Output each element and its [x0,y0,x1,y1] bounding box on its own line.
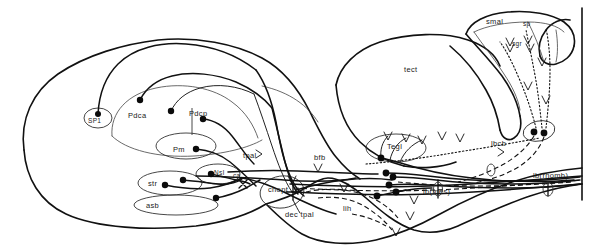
teg-arrowhead-5 [456,134,464,142]
soma-cb2 [541,130,548,137]
soma-pdca [137,97,143,103]
tract-dotted-cb-ascend-3 [546,28,550,128]
label-tect: tect [404,66,418,74]
label-lbcb: lbcb [491,140,506,148]
lbcb-ellipse [487,164,495,176]
label-smal: smal [486,18,503,26]
label-asb: asb [146,202,159,210]
label-str: str [148,180,157,188]
soma-teg4 [393,189,400,196]
tract-pdcp-ascending [171,86,254,111]
soma-str1 [162,182,168,188]
label-pdcp: Pdcp [189,110,208,118]
tract-teg-ascend-3 [400,140,422,162]
label-sgr: sgr [512,41,522,48]
label-sp: sp [523,21,531,28]
tract-lih-2 [318,197,392,230]
lih-arrowhead-3 [410,196,418,204]
soma-cb1 [531,129,538,136]
label-chopt: chopt [268,186,288,194]
label-lih: lih [343,205,352,213]
teg-arrowhead-4 [438,132,446,140]
label-tpal: tpal [243,152,257,160]
cb-arrowhead-2 [524,36,532,44]
nucleus-pm [156,133,216,159]
neuroanatomy-figure: SP1 Pdca Pdcp Pm str Nsl ca asb tpal bfb… [0,0,596,252]
tpal-arrowhead [256,150,262,158]
soma-teg5 [374,193,381,200]
lbcb-arrowhead [498,148,504,156]
label-tegl: Tegl [387,143,402,151]
soma-str2 [180,177,186,183]
label-dec-tpal: dec tpal [285,211,314,219]
label-lb-rhomb: lb(rhomb) [533,172,568,180]
tract-sp1-ascending [98,44,256,114]
label-sp1: SP1 [88,118,101,125]
label-bfb: bfb [314,154,325,162]
soma-teg6 [390,174,397,181]
label-pdca: Pdca [128,112,147,120]
soma-teg2 [386,182,393,189]
cb-arrowhead-4 [524,82,532,90]
soma-pm [193,146,199,152]
tectum-outline [336,35,500,168]
soma-teg3 [383,170,390,177]
cerebellum-outline [450,11,575,139]
soma-pdcp1 [168,108,174,114]
tract-pdca-ascending [140,74,272,108]
tract-bfb-upper [228,171,378,175]
cerebellar-pathway-group [366,28,550,183]
striatal-tract-group [165,174,336,214]
soma-teg1 [378,155,385,162]
label-pm: Pm [173,146,185,154]
soma-asb [213,195,219,201]
tract-lih-3 [352,214,386,226]
label-ca: ca [233,173,241,180]
lih-arrowhead-4 [406,212,414,220]
bfb-arrowhead [314,164,322,172]
label-lb-mes: lb(mes) [423,188,450,196]
label-nsl: Nsl [214,170,224,177]
